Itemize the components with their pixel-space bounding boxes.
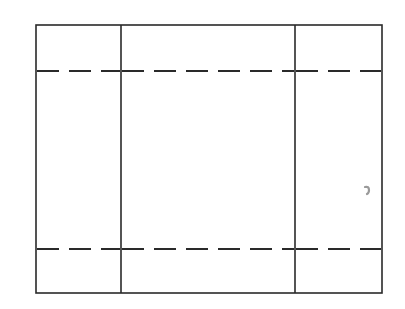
right-panel <box>295 25 382 293</box>
center-panel <box>121 25 295 293</box>
left-panel <box>36 25 121 293</box>
box-net-diagram <box>0 0 405 309</box>
